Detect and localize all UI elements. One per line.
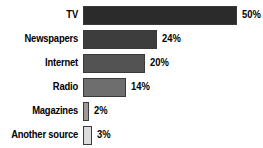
chart-row: Magazines 2% (0, 99, 263, 123)
category-label-tv: TV (5, 10, 78, 20)
bar-zone: 50% (78, 3, 263, 27)
category-label-internet: Internet (5, 58, 78, 68)
chart-row: Another source 3% (0, 123, 263, 147)
bar-another-source (83, 126, 92, 145)
chart-row: Internet 20% (0, 51, 263, 75)
bar-zone: 20% (78, 51, 263, 75)
bar-internet (83, 54, 145, 73)
bar-newspapers (83, 30, 157, 49)
bar-radio (83, 78, 126, 97)
category-label-another-source: Another source (5, 130, 78, 140)
bar-magazines (83, 102, 89, 121)
value-label-newspapers: 24% (162, 34, 181, 44)
chart-row: TV 50% (0, 3, 263, 27)
bar-tv (83, 6, 237, 25)
category-label-radio: Radio (5, 82, 78, 92)
bar-zone: 2% (78, 99, 263, 123)
bar-zone: 24% (78, 27, 263, 51)
value-label-magazines: 2% (94, 106, 108, 116)
value-label-internet: 20% (150, 58, 169, 68)
chart-row: Newspapers 24% (0, 27, 263, 51)
bar-zone: 14% (78, 75, 263, 99)
value-label-another-source: 3% (97, 130, 111, 140)
horizontal-bar-chart: TV 50% Newspapers 24% Internet 20% Radio… (0, 0, 263, 148)
value-label-radio: 14% (131, 82, 150, 92)
category-label-magazines: Magazines (5, 106, 78, 116)
category-label-newspapers: Newspapers (5, 34, 78, 44)
value-label-tv: 50% (242, 10, 261, 20)
chart-row: Radio 14% (0, 75, 263, 99)
bar-zone: 3% (78, 123, 263, 147)
